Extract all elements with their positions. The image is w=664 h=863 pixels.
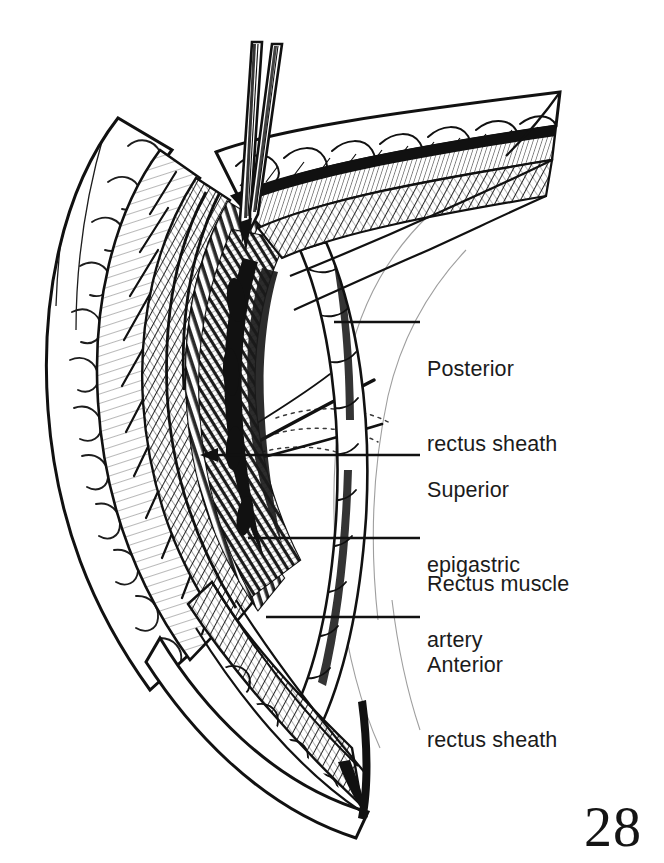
label-anterior-rectus-sheath: Anterior rectus sheath — [427, 603, 557, 803]
label-line-2: rectus sheath — [427, 728, 557, 753]
figure-root: Posterior rectus sheath Superior epigast… — [0, 0, 664, 863]
label-line-1: Rectus muscle — [427, 572, 569, 597]
label-line-1: Anterior — [427, 653, 557, 678]
label-line-1: Superior — [427, 478, 520, 503]
label-line-1: Posterior — [427, 357, 557, 382]
page-number: 28 — [584, 799, 642, 855]
anatomical-illustration — [0, 0, 664, 863]
